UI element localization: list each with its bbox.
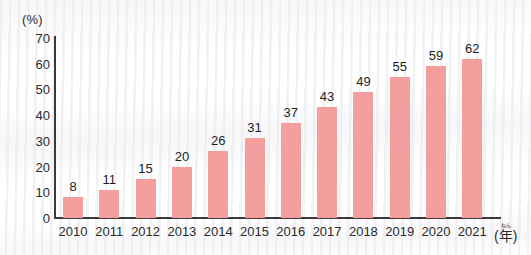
bar-value-label: 59 xyxy=(429,49,443,62)
y-tick-label: 20 xyxy=(22,159,50,174)
year-furigana: ねん xyxy=(499,222,513,228)
bar-group[interactable]: 15 xyxy=(135,162,157,218)
bar-value-label: 55 xyxy=(392,60,406,73)
bar-rect[interactable] xyxy=(317,107,337,218)
bar-group[interactable]: 11 xyxy=(98,173,120,218)
bar-value-label: 15 xyxy=(138,162,152,175)
bar-value-label: 26 xyxy=(211,134,225,147)
x-axis-unit-label: (年ねん) xyxy=(494,222,517,243)
bar-rect[interactable] xyxy=(245,138,265,218)
bar-value-label: 8 xyxy=(69,180,76,193)
bar-value-label: 20 xyxy=(175,150,189,163)
bar-rect[interactable] xyxy=(136,179,156,218)
bar-chart: (%) 706050403020100 81115202631374349555… xyxy=(0,0,531,255)
bar-group[interactable]: 59 xyxy=(425,49,447,218)
y-tick-label: 60 xyxy=(22,56,50,71)
bar-value-label: 62 xyxy=(465,42,479,55)
bar-rect[interactable] xyxy=(281,123,301,218)
y-tick-label: 50 xyxy=(22,82,50,97)
bar-group[interactable]: 49 xyxy=(352,75,374,218)
year-kanji-base: 年 xyxy=(499,228,513,244)
bar-value-label: 11 xyxy=(103,173,117,186)
year-kanji: 年ねん xyxy=(499,228,513,244)
bar-group[interactable]: 31 xyxy=(244,121,266,218)
bar-rect[interactable] xyxy=(99,190,119,218)
bar-group[interactable]: 37 xyxy=(280,106,302,218)
bar-rect[interactable] xyxy=(208,151,228,218)
bar-value-label: 49 xyxy=(356,75,370,88)
y-axis-tick-labels: 706050403020100 xyxy=(18,0,50,255)
bar-group[interactable]: 62 xyxy=(461,42,483,218)
x-axis-tick-labels: 2010201120122013201420152016201720182019… xyxy=(0,224,531,248)
y-tick-label: 70 xyxy=(22,31,50,46)
bar-group[interactable]: 20 xyxy=(171,150,193,218)
bar-value-label: 31 xyxy=(247,121,261,134)
y-tick-label: 10 xyxy=(22,185,50,200)
bar-group[interactable]: 43 xyxy=(316,90,338,218)
bar-rect[interactable] xyxy=(63,197,83,218)
bar-rect[interactable] xyxy=(462,59,482,218)
bar-rect[interactable] xyxy=(426,66,446,218)
bar-rect[interactable] xyxy=(390,77,410,218)
y-tick-label: 30 xyxy=(22,133,50,148)
plot-area: 81115202631374349555962 xyxy=(56,38,500,218)
bar-value-label: 43 xyxy=(320,90,334,103)
bar-value-label: 37 xyxy=(284,106,298,119)
bar-rect[interactable] xyxy=(353,92,373,218)
bar-group[interactable]: 26 xyxy=(207,134,229,218)
bar-group[interactable]: 8 xyxy=(62,180,84,218)
y-tick-label: 40 xyxy=(22,108,50,123)
bar-group[interactable]: 55 xyxy=(389,60,411,218)
x-tick-label: 2021 xyxy=(449,224,495,239)
bar-rect[interactable] xyxy=(172,167,192,218)
